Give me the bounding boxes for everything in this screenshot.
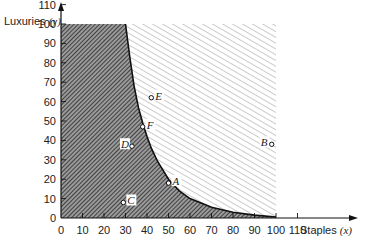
y-tick-label: 50 [44, 115, 56, 127]
svg-text:D: D [120, 138, 129, 150]
y-axis-label: Luxuries (y) [4, 15, 61, 28]
x-tick-label: 0 [58, 224, 64, 236]
svg-text:C: C [127, 194, 135, 206]
y-tick-label: 20 [44, 173, 56, 185]
y-tick-label: 40 [44, 134, 56, 146]
x-tick-label: 10 [76, 224, 88, 236]
y-tick-label: 30 [44, 154, 56, 166]
y-tick-label: 110 [38, 0, 56, 11]
x-axis-label: Staples (x) [300, 224, 352, 237]
y-tick-label: 0 [50, 212, 56, 224]
y-axis-arrow-icon [58, 2, 64, 11]
x-tick-label: 80 [227, 224, 239, 236]
x-tick-label: 100 [267, 224, 285, 236]
x-tick-label: 40 [141, 224, 153, 236]
svg-text:F: F [146, 119, 154, 131]
x-axis-arrow-icon [349, 215, 358, 221]
y-tick-label: 90 [44, 37, 56, 49]
shaded-regions [61, 24, 276, 218]
y-tick-label: 10 [44, 193, 56, 205]
indifference-chart: 0102030405060708090100110010203040506070… [0, 0, 376, 247]
x-tick-label: 30 [119, 224, 131, 236]
svg-text:E: E [154, 90, 162, 102]
y-tick-label: 80 [44, 57, 56, 69]
x-tick-label: 90 [248, 224, 260, 236]
y-tick-label: 70 [44, 76, 56, 88]
y-tick-label: 60 [44, 96, 56, 108]
x-tick-label: 60 [184, 224, 196, 236]
x-tick-label: 20 [98, 224, 110, 236]
svg-text:A: A [172, 175, 180, 187]
svg-text:B: B [261, 136, 268, 148]
x-tick-label: 70 [205, 224, 217, 236]
x-tick-label: 50 [162, 224, 174, 236]
